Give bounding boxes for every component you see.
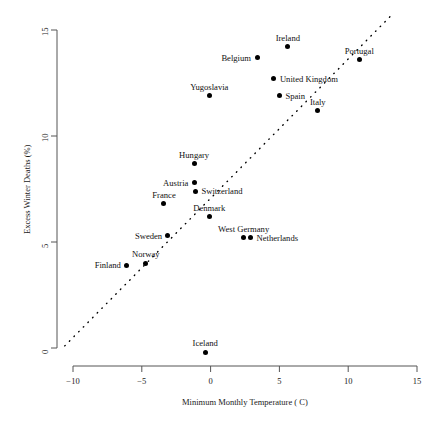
point-label: Yugoslavia: [190, 83, 228, 92]
data-point: [207, 93, 212, 98]
point-label: Austria: [163, 179, 188, 188]
y-tick-label: 0: [40, 350, 50, 354]
data-point: [192, 180, 197, 185]
x-tick-label: 10: [339, 376, 357, 386]
point-label: Norway: [132, 250, 160, 259]
point-label: Italy: [310, 98, 326, 107]
point-label: Iceland: [193, 339, 218, 348]
x-axis-title: Minimum Monthly Temperature ( C): [182, 397, 308, 407]
x-tick-label: −10: [64, 376, 82, 386]
point-label: Belgium: [221, 54, 251, 63]
x-tick-label: 0: [202, 376, 220, 386]
data-point: [255, 55, 260, 60]
data-point: [124, 263, 129, 268]
point-label: Denmark: [193, 204, 225, 213]
point-label: Portugal: [345, 47, 374, 56]
y-axis-title: Excess Winter Deaths (%): [22, 144, 32, 233]
point-label: Switzerland: [201, 187, 242, 196]
data-point: [203, 350, 208, 355]
data-point: [207, 214, 212, 219]
y-tick-label: 5: [40, 244, 50, 248]
x-tick-label: −5: [133, 376, 151, 386]
scatter-plot-figure: −10−5051015051015 IrelandBelgiumPortugal…: [0, 0, 438, 424]
data-point: [192, 161, 197, 166]
point-label: Hungary: [179, 151, 209, 160]
point-label: Sweden: [135, 232, 162, 241]
x-tick-label: 5: [270, 376, 288, 386]
data-point: [193, 189, 198, 194]
point-label: Finland: [95, 261, 121, 270]
y-tick-label: 10: [40, 134, 50, 143]
x-tick-label: 15: [408, 376, 426, 386]
point-label: Netherlands: [257, 234, 299, 243]
point-label: United Kingdom: [280, 75, 338, 84]
point-label: Ireland: [276, 34, 300, 43]
y-tick-label: 15: [40, 28, 50, 37]
point-label: Spain: [285, 92, 305, 101]
point-label: France: [152, 191, 175, 200]
data-point: [357, 57, 362, 62]
plot-area: −10−5051015051015 IrelandBelgiumPortugal…: [0, 0, 438, 424]
